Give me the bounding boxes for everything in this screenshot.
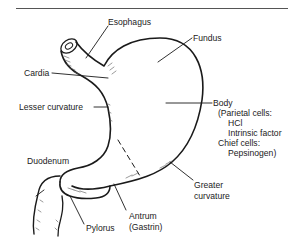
antrum-boundary	[118, 140, 140, 176]
label-fundus: Fundus	[193, 33, 222, 44]
esophagus-leader	[86, 26, 108, 58]
label-esophagus: Esophagus	[108, 17, 151, 28]
label-lesser-curvature: Lesser curvature	[19, 102, 83, 113]
greater-curvature-outline	[72, 38, 203, 189]
duodenum-outline-right	[58, 196, 63, 236]
label-body-chief: Chief cells:	[218, 138, 260, 149]
label-duodenum: Duodenum	[27, 156, 69, 167]
label-cardia: Cardia	[24, 68, 49, 79]
stomach-illustration	[0, 0, 303, 244]
label-pylorus: Pylorus	[86, 223, 115, 234]
label-antrum: Antrum	[129, 211, 157, 222]
duodenum-leader	[36, 190, 44, 196]
greater-curvature-leader	[170, 162, 193, 180]
label-body-pepsinogen: Pepsinogen)	[228, 148, 276, 159]
label-greater-curvature-2: curvature	[194, 191, 230, 202]
fundus-leader	[158, 38, 192, 62]
label-antrum-gastrin: (Gastrin)	[129, 222, 162, 233]
label-body-parietal: (Parietal cells:	[218, 108, 272, 119]
cardia-leader	[52, 73, 108, 78]
pylorus-leader	[70, 196, 84, 224]
label-body-hcl: HCl	[228, 118, 242, 129]
label-body-intrinsic: Intrinsic factor	[228, 128, 282, 139]
duodenum-outline-left	[33, 176, 60, 234]
stomach-diagram: Esophagus Fundus Cardia Lesser curvature…	[0, 0, 303, 244]
label-body: Body	[213, 98, 233, 109]
label-greater-curvature: Greater	[194, 180, 223, 191]
pylorus-outline	[60, 182, 110, 198]
antrum-leader	[114, 184, 126, 210]
